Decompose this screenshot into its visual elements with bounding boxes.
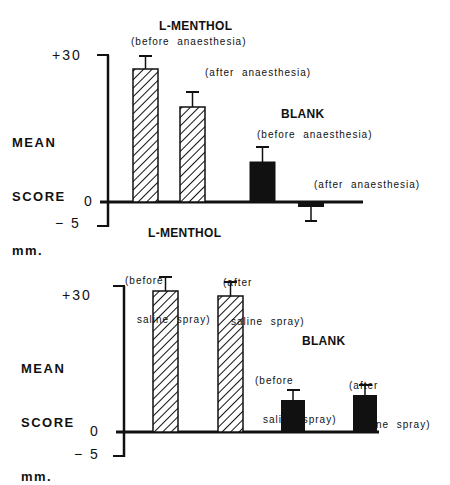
label-line-1: (after: [223, 276, 304, 289]
top-bar3-label: (before anaesthesia): [257, 128, 373, 141]
bottom-tick-label-minus5: − 5: [74, 446, 100, 462]
bottom-bar3-label: (before saline spray): [255, 348, 336, 439]
top-y-axis-label: MEAN SCORE mm.: [12, 98, 66, 278]
top-bar-blank-after: [298, 202, 324, 221]
bottom-bar4-label: (after saline spray): [349, 353, 430, 444]
bottom-tick-label-0: 0: [90, 423, 100, 439]
bottom-bar1-label: (before saline spray): [125, 248, 210, 339]
ylabel-line-2: SCORE: [21, 414, 75, 432]
bottom-bar2-label: (after saline spray): [223, 250, 304, 341]
top-bar-lmenthol-before: [133, 56, 158, 202]
label-line-2: saline spray): [125, 313, 210, 326]
label-line-1: (before: [255, 374, 336, 387]
label-line-2: saline spray): [349, 418, 430, 431]
top-tick-label-0: 0: [84, 193, 94, 209]
label-line-1: (before: [125, 274, 210, 287]
top-bar-blank-before: [250, 147, 275, 202]
bottom-tick-label-30: +30: [62, 287, 92, 303]
top-bar2-label: (after anaesthesia): [205, 66, 311, 79]
top-bar4-label: (after anaesthesia): [314, 178, 420, 191]
ylabel-line-3: mm.: [12, 242, 66, 260]
top-chart: [97, 55, 363, 227]
top-bar-lmenthol-after: [180, 92, 205, 202]
ylabel-line-1: MEAN: [12, 134, 66, 152]
label-line-2: saline spray): [223, 315, 304, 328]
bottom-group-title-blank: BLANK: [302, 334, 346, 348]
ylabel-line-1: MEAN: [21, 360, 75, 378]
top-tick-label-30: +30: [52, 47, 82, 63]
top-group-title-blank: BLANK: [281, 107, 325, 121]
label-line-1: (after: [349, 379, 430, 392]
ylabel-line-2: SCORE: [12, 188, 66, 206]
bottom-group-title-lmenthol: L-MENTHOL: [148, 226, 221, 240]
top-bar1-label: (before anaesthesia): [131, 35, 247, 48]
bottom-y-axis-label: MEAN SCORE mm.: [21, 324, 75, 485]
top-group-title-lmenthol: L-MENTHOL: [159, 19, 232, 33]
label-line-2: saline spray): [255, 413, 336, 426]
ylabel-line-3: mm.: [21, 468, 75, 485]
